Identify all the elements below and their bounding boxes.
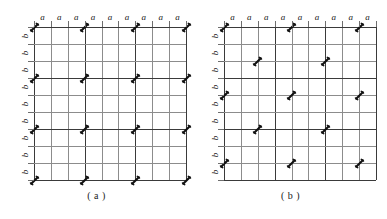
dimension-label-b: b [19, 131, 31, 145]
grid-line-vertical [85, 27, 86, 180]
grid-line-horizontal [34, 44, 186, 45]
grid-line-horizontal [224, 78, 376, 79]
grid-line-vertical [292, 27, 293, 180]
grid-line-vertical [34, 27, 35, 180]
dimension-label-a: a [57, 11, 62, 23]
grid-line-horizontal [224, 112, 376, 113]
grid-line-vertical [102, 27, 103, 180]
panel-a-left-dimension-labels: bbbbbbbbb [18, 27, 32, 180]
dimension-tick-top [118, 21, 119, 27]
grid-line-horizontal [34, 146, 186, 147]
grid-line-horizontal [224, 95, 376, 96]
panel-a-grid [34, 27, 186, 180]
dimension-label-a: a [348, 11, 353, 23]
grid-line-vertical [308, 27, 309, 180]
dimension-tick-left [218, 78, 224, 79]
grid-line-horizontal [224, 129, 376, 130]
panel-b: aaaaaaaaa bbbbbbbbb ( b ) [194, 0, 387, 219]
grid-line-vertical [224, 27, 225, 180]
panel-b-left-dimension-labels: bbbbbbbbb [208, 27, 222, 180]
dimension-tick-left [218, 44, 224, 45]
dimension-label-b: b [19, 148, 31, 162]
grid-line-horizontal [224, 180, 376, 181]
grid-line-horizontal [34, 95, 186, 96]
dimension-label-b: b [19, 46, 31, 60]
dimension-label-a: a [230, 11, 235, 23]
dimension-tick-left [218, 61, 224, 62]
dimension-label-b: b [209, 131, 221, 145]
dimension-label-a: a [74, 11, 79, 23]
dimension-label-a: a [247, 11, 252, 23]
dimension-tick-top [34, 21, 35, 27]
grid-line-horizontal [34, 163, 186, 164]
dimension-tick-top [135, 21, 136, 27]
dimension-tick-top [258, 21, 259, 27]
dimension-label-a: a [175, 11, 180, 23]
grid-line-horizontal [224, 27, 376, 28]
dimension-label-a: a [264, 11, 269, 23]
dimension-tick-top [376, 21, 377, 27]
dimension-label-a: a [281, 11, 286, 23]
dimension-tick-top [342, 21, 343, 27]
dimension-tick-left [28, 44, 34, 45]
dimension-tick-top [51, 21, 52, 27]
dimension-label-a: a [315, 11, 320, 23]
dimension-label-a: a [125, 11, 130, 23]
grid-line-vertical [359, 27, 360, 180]
grid-line-horizontal [34, 180, 186, 181]
dimension-label-b: b [209, 97, 221, 111]
grid-line-horizontal [34, 61, 186, 62]
dimension-label-b: b [209, 114, 221, 128]
dimension-tick-left [218, 27, 224, 28]
dimension-tick-left [28, 129, 34, 130]
dimension-tick-left [28, 163, 34, 164]
dimension-tick-top [241, 21, 242, 27]
dimension-tick-top [102, 21, 103, 27]
dimension-tick-left [28, 180, 34, 181]
panel-b-top-dimension-labels: aaaaaaaaa [224, 11, 376, 25]
grid-line-vertical [135, 27, 136, 180]
dimension-tick-left [28, 61, 34, 62]
grid-line-vertical [342, 27, 343, 180]
grid-line-vertical [376, 27, 377, 180]
grid-line-vertical [325, 27, 326, 180]
dimension-label-a: a [158, 11, 163, 23]
grid-line-horizontal [34, 112, 186, 113]
grid-line-horizontal [34, 27, 186, 28]
dimension-tick-left [28, 27, 34, 28]
grid-line-vertical [169, 27, 170, 180]
dimension-tick-top [275, 21, 276, 27]
grid-line-vertical [68, 27, 69, 180]
dimension-tick-left [28, 95, 34, 96]
dimension-label-a: a [332, 11, 337, 23]
dimension-tick-top [224, 21, 225, 27]
dimension-label-b: b [19, 29, 31, 43]
dimension-tick-top [292, 21, 293, 27]
dimension-label-b: b [209, 63, 221, 77]
dimension-tick-top [186, 21, 187, 27]
dimension-label-b: b [19, 114, 31, 128]
grid-line-vertical [258, 27, 259, 180]
grid-line-horizontal [224, 44, 376, 45]
dimension-label-a: a [108, 11, 113, 23]
grid-line-vertical [118, 27, 119, 180]
dimension-tick-left [218, 180, 224, 181]
grid-line-horizontal [224, 61, 376, 62]
dimension-tick-top [152, 21, 153, 27]
dimension-label-b: b [209, 148, 221, 162]
dimension-label-a: a [91, 11, 96, 23]
dimension-tick-left [218, 163, 224, 164]
dimension-tick-left [28, 78, 34, 79]
panel-a: aaaaaaaaa bbbbbbbbb ( a ) [0, 0, 193, 219]
dimension-tick-left [218, 112, 224, 113]
dimension-label-a: a [40, 11, 45, 23]
panel-a-top-dimension-labels: aaaaaaaaa [34, 11, 186, 25]
grid-line-horizontal [34, 129, 186, 130]
dimension-tick-top [359, 21, 360, 27]
grid-line-vertical [275, 27, 276, 180]
dimension-label-b: b [209, 165, 221, 179]
dimension-label-b: b [19, 63, 31, 77]
dimension-label-b: b [209, 29, 221, 43]
grid-line-vertical [241, 27, 242, 180]
panel-a-caption: ( a ) [0, 190, 193, 201]
